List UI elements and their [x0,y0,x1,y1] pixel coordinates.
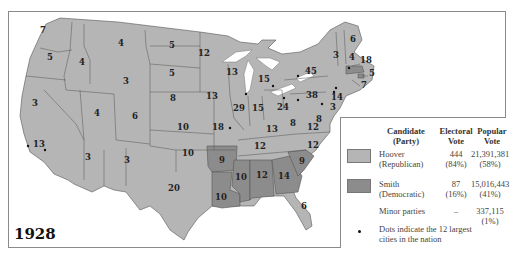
state-electoral-label: 7 [361,80,367,90]
city-dot-chicago [245,93,247,95]
state-electoral-label: 15 [258,74,270,84]
legend-box: Candidate(Party) ElectoralVote PopularVo… [340,117,506,248]
legend-header-popular: PopularVote [475,126,509,146]
legend-smith-candidate: Smith(Democratic) [379,179,424,199]
city-dot-icon [358,230,361,233]
state-electoral-label: 3 [330,102,336,112]
state-electoral-label: 5 [369,68,375,78]
state-electoral-label: 12 [307,122,319,132]
state-electoral-label: 12 [254,141,266,151]
hoover-states-region [20,18,374,240]
hoover-swatch [347,149,371,163]
city-dot-cleveland [283,97,285,99]
state-electoral-label: 5 [47,52,53,62]
legend-smith-popular: 15,016,443(41%) [469,179,511,199]
legend-minor-electoral: – [439,206,473,216]
state-electoral-label: 10 [182,148,194,158]
state-electoral-label: 38 [306,90,318,100]
state-electoral-label: 12 [256,170,268,180]
city-dot-pittsburgh [297,99,299,101]
city-dot-philadelphia [333,91,335,93]
state-electoral-label: 3 [85,152,91,162]
state-electoral-label: 8 [170,93,176,103]
legend-dots-note: Dots indicate the 12 largestcities in th… [379,224,472,244]
city-dot-los-angeles [44,149,46,151]
smith-swatch [347,179,371,193]
state-electoral-label: 4 [79,57,85,67]
state-electoral-label: 6 [301,201,307,211]
year-label: 1928 [14,225,56,243]
state-electoral-label: 3 [124,155,130,165]
city-dot-boston [348,67,350,69]
state-electoral-label: 4 [349,52,355,62]
state-electoral-label: 9 [299,156,305,166]
state-electoral-label: 14 [331,92,343,102]
city-dot-st-louis [229,127,231,129]
state-electoral-label: 6 [132,111,138,121]
state-electoral-label: 8 [290,118,296,128]
legend-hoover-popular: 21,391,381(58%) [469,149,511,169]
legend-header-candidate: Candidate(Party) [375,126,437,146]
state-electoral-label: 5 [169,68,175,78]
state-electoral-label: 15 [252,103,264,113]
state-electoral-label: 10 [235,172,247,182]
city-dot-san-francisco [27,145,29,147]
state-electoral-label: 10 [177,122,189,132]
state-electoral-label: 29 [233,103,245,113]
legend-smith-electoral: 87(16%) [439,179,473,199]
state-electoral-label: 13 [226,67,238,77]
state-electoral-label: 13 [33,139,45,149]
state-electoral-label: 5 [169,40,175,50]
legend-header-electoral: ElectoralVote [437,126,475,146]
state-electoral-label: 3 [123,76,129,86]
state-electoral-label: 12 [198,48,210,58]
state-electoral-label: 9 [219,155,225,165]
state-electoral-label: 18 [360,55,372,65]
state-electoral-label: 13 [206,91,218,101]
state-electoral-label: 4 [94,108,100,118]
city-dot-baltimore [321,103,323,105]
legend-hoover-electoral: 444(84%) [439,149,473,169]
legend-hoover-candidate: Hoover(Republican) [379,149,423,169]
state-electoral-label: 24 [277,102,289,112]
state-electoral-label: 13 [266,124,278,134]
state-electoral-label: 7 [40,25,46,35]
state-electoral-label: 10 [215,192,227,202]
state-electoral-label: 3 [32,98,38,108]
state-electoral-label: 45 [305,66,317,76]
state-electoral-label: 18 [212,122,224,132]
state-electoral-label: 20 [168,183,180,193]
legend-minor-popular: 337,115(1%) [469,206,511,226]
state-electoral-label: 3 [333,50,339,60]
legend-minor-candidate: Minor parties [379,206,425,216]
state-electoral-label: 14 [278,171,290,181]
city-dot-new-york [335,87,337,89]
state-electoral-label: 6 [350,34,356,44]
smith-alabama [250,160,274,200]
city-dot-buffalo [297,75,299,77]
city-dot-detroit [272,85,274,87]
state-electoral-label: 4 [118,38,124,48]
state-electoral-label: 12 [307,140,319,150]
